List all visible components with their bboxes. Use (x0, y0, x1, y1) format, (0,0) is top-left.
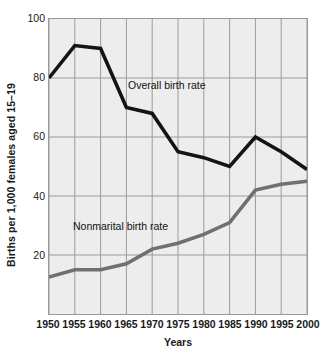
x-axis-tick-labels: 1950195519601965197019751980198519901995… (0, 318, 330, 332)
x-axis-title: Years (48, 336, 308, 348)
x-axis-tick-label: 2000 (291, 318, 325, 331)
y-axis-tick-label: 60 (1, 131, 45, 142)
y-axis-tick-label: 40 (1, 191, 45, 202)
y-axis-tick-label: 100 (1, 13, 45, 24)
plot-area: Overall birth rateNonmarital birth rate (48, 18, 308, 315)
y-axis-tick-labels: 20406080100 (0, 0, 45, 358)
series-label: Overall birth rate (128, 79, 206, 91)
series-annotations: Overall birth rateNonmarital birth rate (49, 19, 307, 314)
series-label: Nonmarital birth rate (73, 220, 168, 232)
y-axis-tick-label: 20 (1, 250, 45, 261)
chart-figure: Births per 1,000 females aged 15–19 2040… (0, 0, 330, 358)
y-axis-tick-label: 80 (1, 72, 45, 83)
